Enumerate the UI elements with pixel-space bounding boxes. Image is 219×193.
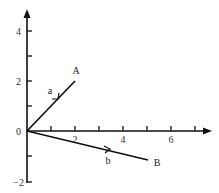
x-tick-label: 4 xyxy=(121,134,126,145)
origin-label: 0 xyxy=(16,126,21,137)
vector-a-label: a xyxy=(48,85,53,96)
point-a-label: A xyxy=(72,65,80,76)
y-tick-label: 4 xyxy=(16,26,21,37)
vector-diagram: 2 4 6 4 2 0 −2 a A b B xyxy=(0,0,219,193)
point-b-label: B xyxy=(154,157,161,168)
y-tick-label: −2 xyxy=(13,177,24,188)
x-axis-arrow-icon xyxy=(203,128,212,135)
vector-b xyxy=(27,131,148,160)
vector-b-label: b xyxy=(106,155,111,166)
vector-a-arrowhead-icon xyxy=(52,93,59,99)
x-tick-label: 6 xyxy=(169,134,174,145)
x-axis xyxy=(27,126,212,135)
y-axis-arrow-icon xyxy=(24,9,31,18)
y-axis xyxy=(24,9,33,183)
y-tick-label: 2 xyxy=(16,76,21,87)
